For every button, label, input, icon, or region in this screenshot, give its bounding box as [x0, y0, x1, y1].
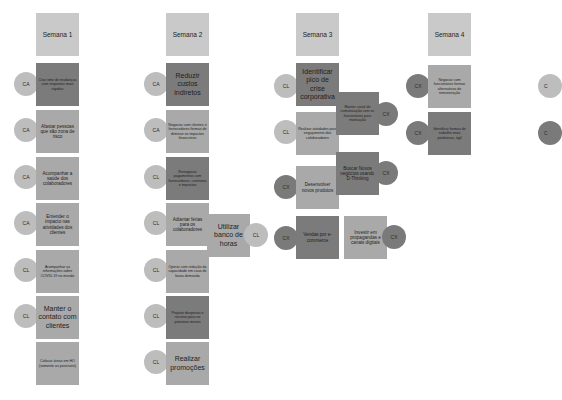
card-text: Acompanhar a saúde dos colaboradores: [38, 171, 77, 187]
card-text: Identificar pico de crise corporativa: [298, 68, 337, 100]
action-card[interactable]: Identificar pico de crise corporativa: [296, 63, 339, 106]
tag-badge: CL: [274, 120, 298, 144]
tag-label: CX: [383, 111, 390, 117]
header-label: Semana 4: [435, 31, 465, 38]
card-text: Colocar áreas em HO (somente as possívei…: [38, 359, 77, 367]
tag-label: CX: [391, 234, 398, 240]
card-text: Negociar com clientes e fornecedores for…: [168, 123, 207, 140]
tag-label: CX: [415, 83, 422, 89]
card-text: Negociar com funcionários formas alterna…: [430, 78, 469, 95]
tag-label: CA: [23, 81, 30, 87]
action-card[interactable]: Afastar pessoas que são zona de risco: [36, 110, 79, 153]
card-text: Realizar promoções: [168, 355, 207, 371]
tag-label: CL: [153, 220, 159, 226]
tag-label: C: [544, 130, 548, 136]
tag-label: CA: [23, 127, 30, 133]
tag-badge: CX: [406, 74, 430, 98]
card-text: Acompanhar as informações sobre COVID-19…: [38, 265, 77, 277]
action-card[interactable]: Investir em propagandas e canais digitai…: [344, 216, 387, 259]
tag-badge: CA: [14, 72, 38, 96]
tag-badge: CL: [144, 258, 168, 282]
header-label: Semana 2: [173, 31, 203, 38]
card-text: Reduzir custos indiretos: [168, 72, 207, 96]
card-text: Adiantar férias para os colaboradores: [168, 217, 207, 233]
header-label: Semana 1: [43, 31, 73, 38]
action-card[interactable]: Colocar áreas em HO (somente as possívei…: [36, 342, 79, 385]
action-card[interactable]: Buscar Novos negócios usando D-Thinking: [336, 152, 379, 195]
tag-badge: CL: [14, 258, 38, 282]
action-card[interactable]: Manter canal de comunicação com os funci…: [336, 92, 379, 135]
tag-badge: CL: [244, 223, 268, 247]
tag-badge: CA: [144, 72, 168, 96]
week-3-header: Semana 3: [296, 13, 339, 56]
tag-badge: CL: [144, 165, 168, 189]
tag-badge: CX: [374, 102, 398, 126]
card-text: Identificar formas de trabalho mais prod…: [430, 127, 469, 139]
week-1-header: Semana 1: [36, 13, 79, 56]
action-card[interactable]: Negociar com funcionários formas alterna…: [428, 65, 471, 108]
card-text: Buscar Novos negócios usando D-Thinking: [338, 166, 377, 182]
tag-badge: CA: [14, 118, 38, 142]
action-card[interactable]: Realizar promoções: [166, 342, 209, 385]
card-text: Utilizar banco de horas: [209, 223, 248, 247]
card-text: Projetar despesas e receitas para os pró…: [168, 311, 207, 323]
tag-label: CL: [23, 267, 29, 273]
action-card[interactable]: Adiantar férias para os colaboradores: [166, 203, 209, 246]
tag-label: CL: [153, 359, 159, 365]
action-card[interactable]: Acompanhar a saúde dos colaboradores: [36, 157, 79, 200]
tag-label: CL: [23, 313, 29, 319]
week-2-header: Semana 2: [166, 13, 209, 56]
card-text: Realizar atividades para engajamento dos…: [298, 127, 337, 139]
action-card[interactable]: Criar time de mudanças com respostas mai…: [36, 63, 79, 106]
action-card[interactable]: Manter o contato com clientes: [36, 296, 79, 339]
tag-badge: C: [538, 74, 562, 98]
card-text: Investir em propagandas e canais digitai…: [346, 230, 385, 246]
header-label: Semana 3: [303, 31, 333, 38]
card-text: Renegociar pagamentos com fornecedores, …: [168, 170, 207, 187]
action-card[interactable]: Operar com redução da capacidade em caso…: [166, 250, 209, 293]
tag-badge: CX: [406, 121, 430, 145]
tag-badge: CX: [382, 225, 406, 249]
tag-badge: CX: [274, 226, 298, 250]
tag-badge: CL: [144, 350, 168, 374]
tag-label: CA: [153, 127, 160, 133]
tag-badge: CA: [14, 211, 38, 235]
action-card[interactable]: Vendas por e-commerce: [296, 216, 339, 259]
tag-label: CL: [153, 267, 159, 273]
tag-badge: C: [538, 121, 562, 145]
tag-label: CL: [153, 174, 159, 180]
tag-label: CA: [23, 220, 30, 226]
card-text: Desenvolver novos produtos: [298, 182, 337, 193]
tag-badge: CL: [144, 304, 168, 328]
action-card[interactable]: Negociar com clientes e fornecedores for…: [166, 110, 209, 153]
tag-label: CL: [283, 83, 289, 89]
tag-label: CL: [283, 129, 289, 135]
tag-label: CX: [283, 184, 290, 190]
action-card[interactable]: Reduzir custos indiretos: [166, 63, 209, 106]
tag-badge: CL: [144, 211, 168, 235]
card-text: Criar time de mudanças com respostas mai…: [38, 78, 77, 90]
tag-badge: CX: [274, 175, 298, 199]
tag-badge: CA: [14, 165, 38, 189]
tag-label: CA: [153, 81, 160, 87]
card-text: Entender o impacto nas atividades dos cl…: [38, 214, 77, 235]
action-card[interactable]: Desenvolver novos produtos: [296, 166, 339, 209]
action-card[interactable]: Realizar atividades para engajamento dos…: [296, 112, 339, 155]
action-card[interactable]: Renegociar pagamentos com fornecedores, …: [166, 157, 209, 200]
tag-label: C: [544, 83, 548, 89]
tag-label: CL: [253, 232, 259, 238]
action-card[interactable]: Projetar despesas e receitas para os pró…: [166, 296, 209, 339]
tag-badge: CL: [274, 74, 298, 98]
tag-label: CL: [153, 313, 159, 319]
card-text: Manter canal de comunicação com os funci…: [338, 105, 377, 122]
tag-label: CX: [383, 170, 390, 176]
tag-label: CA: [23, 174, 30, 180]
action-card[interactable]: Entender o impacto nas atividades dos cl…: [36, 203, 79, 246]
action-card[interactable]: Identificar formas de trabalho mais prod…: [428, 112, 471, 155]
card-text: Afastar pessoas que são zona de risco: [38, 124, 77, 140]
action-card[interactable]: Acompanhar as informações sobre COVID-19…: [36, 250, 79, 293]
card-text: Manter o contato com clientes: [38, 305, 77, 329]
tag-label: CX: [283, 235, 290, 241]
tag-badge: CA: [144, 118, 168, 142]
week-4-header: Semana 4: [428, 13, 471, 56]
